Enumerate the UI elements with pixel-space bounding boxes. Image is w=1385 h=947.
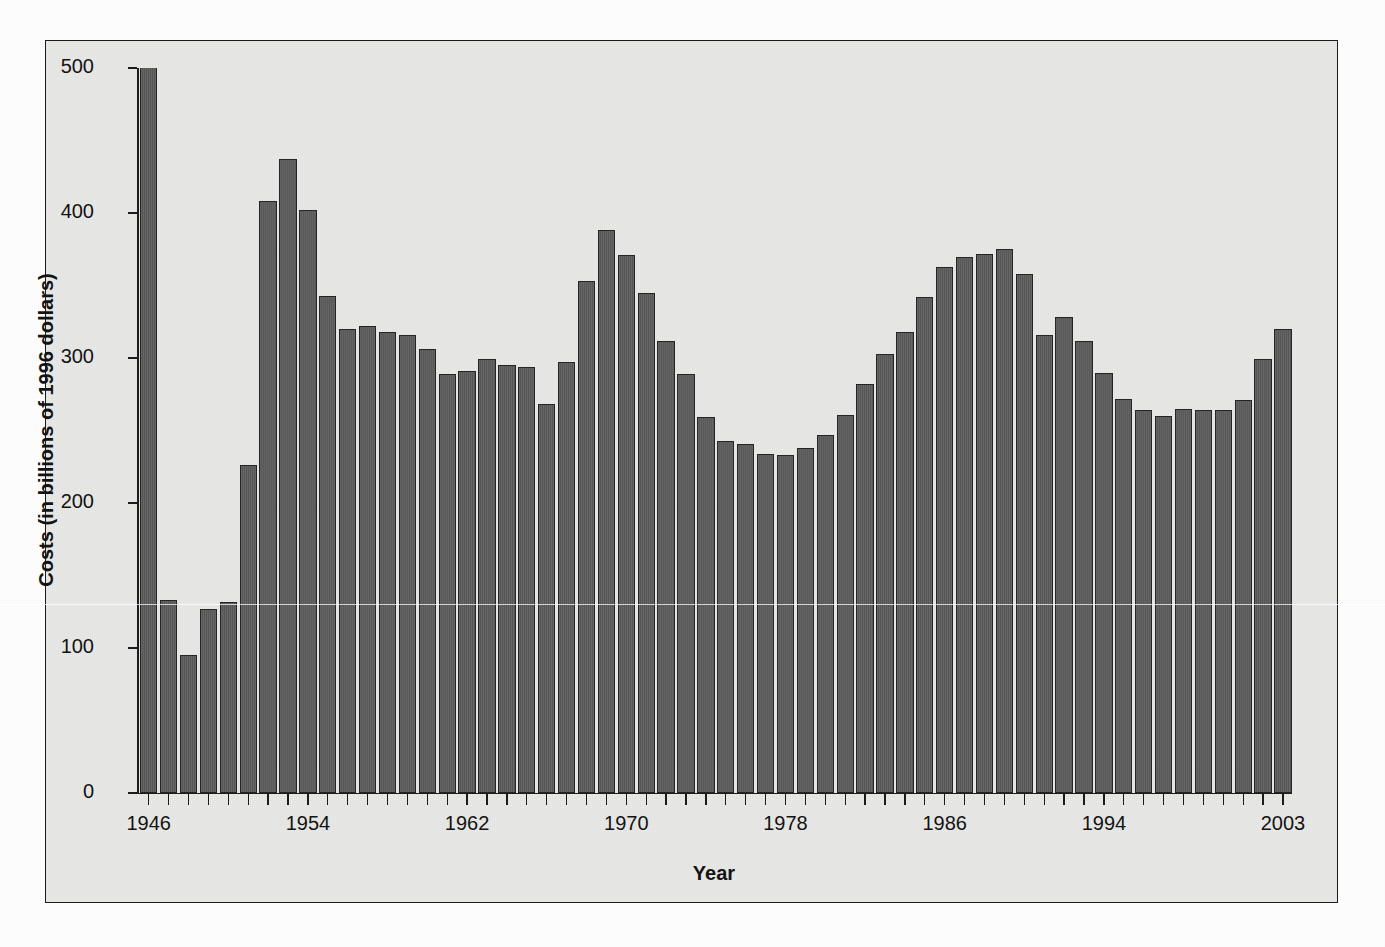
chart-panel xyxy=(45,40,1338,903)
figure: 5004003002001000 19461954196219701978198… xyxy=(0,0,1385,947)
y-axis-title: Costs (in billions of 1996 dollars) xyxy=(35,273,58,586)
x-axis-title: Year xyxy=(693,862,735,885)
